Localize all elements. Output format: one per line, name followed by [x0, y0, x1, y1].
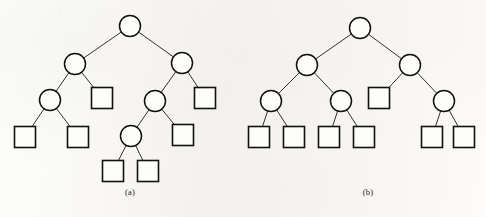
- paper-speck: [399, 174, 400, 175]
- leaf-node-a-leaf3[interactable]: [15, 127, 36, 148]
- tree-edge-b-n5-to-b-leaf7: [449, 110, 458, 126]
- tree-edge-a-n2-to-a-leaf2: [188, 72, 198, 88]
- internal-node-b-n5[interactable]: [434, 91, 455, 112]
- paper-speck: [469, 69, 471, 71]
- leaf-node-b-leaf2[interactable]: [249, 127, 270, 148]
- tree-panel-a: (a): [15, 16, 216, 198]
- paper-speck: [19, 174, 20, 175]
- edge-group-b: [263, 34, 459, 126]
- internal-node-b-n3[interactable]: [261, 91, 282, 112]
- internal-node-a-n1[interactable]: [65, 54, 86, 75]
- tree-edge-a-root-to-a-n2: [139, 32, 174, 57]
- tree-edge-b-n1-to-b-n4: [314, 73, 334, 94]
- leaf-node-a-leaf4[interactable]: [68, 127, 89, 148]
- tree-edge-a-n1-to-a-leaf1: [82, 72, 94, 87]
- tree-edge-b-root-to-b-n2: [368, 34, 401, 59]
- leaf-node-b-leaf6[interactable]: [422, 127, 443, 148]
- leaf-node-b-leaf3[interactable]: [284, 127, 305, 148]
- tree-edge-a-root-to-a-n1: [84, 32, 122, 58]
- leaf-node-b-leaf1[interactable]: [369, 88, 390, 109]
- leaf-node-a-leaf6[interactable]: [103, 161, 124, 182]
- internal-node-a-root[interactable]: [120, 16, 141, 37]
- tree-edge-b-n1-to-b-n3: [278, 72, 299, 93]
- leaf-node-a-leaf7[interactable]: [138, 161, 159, 182]
- tree-edge-a-n3-to-a-leaf3: [32, 109, 44, 127]
- tree-edge-b-n3-to-b-leaf2: [263, 111, 268, 127]
- leaf-node-a-leaf1[interactable]: [92, 88, 113, 109]
- leaf-node-a-leaf5[interactable]: [173, 125, 194, 146]
- tree-edge-b-root-to-b-n1: [316, 34, 352, 59]
- tree-edge-b-n5-to-b-leaf6: [436, 111, 441, 127]
- tree-edge-a-n3-to-a-leaf4: [56, 108, 70, 126]
- internal-node-b-n4[interactable]: [331, 91, 352, 112]
- tree-panel-b: (b): [249, 18, 475, 198]
- panel-caption-a: (a): [125, 187, 135, 197]
- internal-node-b-n2[interactable]: [400, 55, 421, 76]
- tree-edge-b-n2-to-b-n5: [417, 73, 437, 94]
- tree-diagram-svg: (a)(b): [0, 0, 486, 217]
- tree-edge-a-n4-to-a-leaf5: [162, 109, 175, 124]
- internal-node-b-n1[interactable]: [297, 55, 318, 76]
- internal-node-a-n2[interactable]: [172, 53, 193, 74]
- figure-canvas: (a)(b): [0, 0, 486, 217]
- paper-speck: [299, 21, 300, 22]
- leaf-node-b-leaf7[interactable]: [454, 127, 475, 148]
- tree-edge-a-n5-to-a-leaf6: [118, 145, 126, 160]
- tree-edge-b-n4-to-b-leaf5: [347, 110, 358, 127]
- internal-node-a-n4[interactable]: [145, 91, 166, 112]
- panel-caption-b: (b): [363, 187, 374, 197]
- leaf-node-b-leaf4[interactable]: [319, 127, 340, 148]
- internal-node-a-n3[interactable]: [40, 90, 61, 111]
- internal-node-a-n5[interactable]: [121, 126, 142, 147]
- paper-speck: [239, 159, 240, 160]
- paper-speck: [59, 11, 61, 13]
- internal-node-b-root[interactable]: [350, 18, 371, 39]
- tree-edge-a-n5-to-a-leaf7: [136, 145, 143, 160]
- leaf-node-a-leaf2[interactable]: [195, 88, 216, 109]
- leaf-node-b-leaf5[interactable]: [354, 127, 375, 148]
- tree-edge-b-n3-to-b-leaf3: [277, 110, 288, 127]
- paper-speck: [227, 47, 228, 48]
- tree-edge-b-n4-to-b-leaf4: [333, 111, 338, 127]
- tree-edge-a-n4-to-a-n5: [137, 110, 149, 128]
- tree-edge-a-n1-to-a-n3: [56, 73, 69, 92]
- tree-edge-b-n2-to-b-leaf1: [389, 73, 403, 88]
- tree-edge-a-n2-to-a-n4: [161, 72, 176, 93]
- paper-speck: [159, 204, 160, 205]
